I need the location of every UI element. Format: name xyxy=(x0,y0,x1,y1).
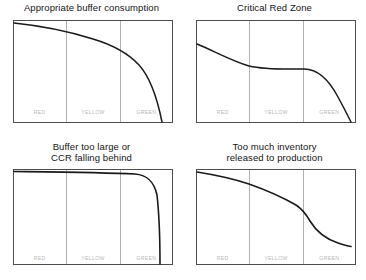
zone-label-red: RED xyxy=(196,253,249,263)
zone-label-row: RED YELLOW GREEN xyxy=(13,253,173,263)
zone-label-row: RED YELLOW GREEN xyxy=(196,253,356,263)
chart-panel-too-much-inventory: Too much inventory released to productio… xyxy=(183,140,366,280)
zone-label-green: GREEN xyxy=(120,107,173,117)
zone-label-red: RED xyxy=(196,107,249,117)
panel-title: Critical Red Zone xyxy=(183,2,366,13)
chart-panel-buffer-too-large: Buffer too large or CCR falling behind R… xyxy=(0,140,183,280)
plot-svg xyxy=(196,169,356,265)
zone-label-yellow: YELLOW xyxy=(66,253,119,263)
zone-label-green: GREEN xyxy=(303,253,356,263)
zone-label-red: RED xyxy=(13,253,66,263)
plot-svg xyxy=(13,169,173,265)
zone-label-row: RED YELLOW GREEN xyxy=(196,107,356,117)
panel-title: Appropriate buffer consumption xyxy=(0,2,183,13)
plot-frame xyxy=(197,170,356,265)
chart-panel-appropriate-buffer-consumption: Appropriate buffer consumption RED YELLO… xyxy=(0,0,183,140)
zone-label-red: RED xyxy=(13,107,66,117)
zone-label-yellow: YELLOW xyxy=(249,253,302,263)
plot-frame xyxy=(14,170,173,265)
buffer-management-figure: Appropriate buffer consumption RED YELLO… xyxy=(0,0,366,280)
zone-label-row: RED YELLOW GREEN xyxy=(13,107,173,117)
panel-title: Buffer too large or CCR falling behind xyxy=(0,141,183,163)
zone-label-green: GREEN xyxy=(120,253,173,263)
panel-title: Too much inventory released to productio… xyxy=(183,141,366,163)
zone-label-green: GREEN xyxy=(303,107,356,117)
chart-panel-critical-red-zone: Critical Red Zone RED YELLOW GREEN xyxy=(183,0,366,140)
zone-label-yellow: YELLOW xyxy=(66,107,119,117)
zone-label-yellow: YELLOW xyxy=(249,107,302,117)
